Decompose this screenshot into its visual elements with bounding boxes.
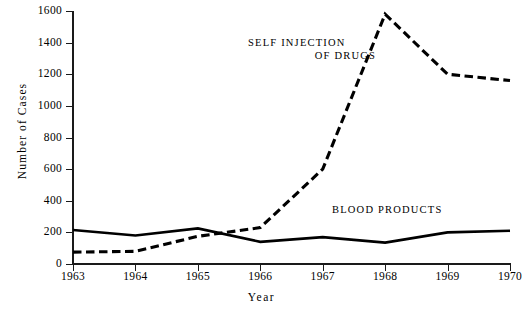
series-label-self-injection-of-drugs: SELF INJECTION OF DRUGS [248,36,376,62]
series-label-line2: OF DRUGS [248,49,376,62]
series-label-line1: SELF INJECTION [248,37,346,48]
x-axis-title: Year [0,291,523,303]
chart-container: 16001400120010008006004002000 1963196419… [0,0,523,315]
y-axis-title: Number of Cases [16,61,28,201]
series-blood-products [73,228,510,242]
series-label-blood-products: BLOOD PRODUCTS [332,203,442,216]
